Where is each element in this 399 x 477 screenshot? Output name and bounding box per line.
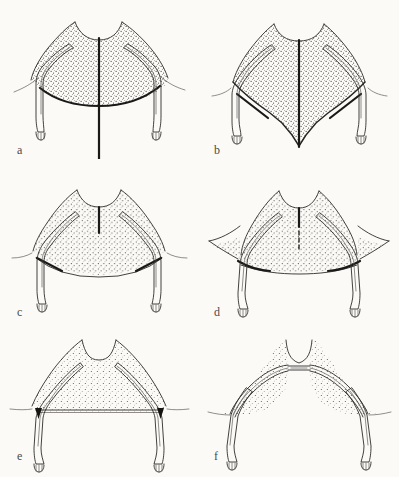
panel-label-b: b xyxy=(214,144,220,156)
panel-f-drawing xyxy=(200,322,399,477)
dorsal-notch-arc xyxy=(286,340,312,363)
panel-d-drawing xyxy=(200,165,399,324)
panel-label-e: e xyxy=(17,450,23,462)
panel-c-drawing xyxy=(0,165,199,324)
figure-panel-d: d xyxy=(200,165,399,324)
figure-panel-f: f xyxy=(200,322,399,477)
left-limb-foot xyxy=(36,132,45,140)
panel-b-drawing xyxy=(200,0,399,159)
panel-label-d: d xyxy=(214,306,220,318)
stipple-field xyxy=(0,322,199,477)
figure-panel-b: b xyxy=(200,0,399,159)
right-flange-edge xyxy=(167,253,187,258)
left-wing-flange xyxy=(209,226,240,241)
right-limb-foot xyxy=(152,132,161,140)
right-flange-edge xyxy=(368,88,387,96)
figure-panel-a: a xyxy=(0,0,199,159)
stipple-field xyxy=(0,165,199,324)
left-flange-edge xyxy=(12,253,32,258)
figure-panel-c: c xyxy=(0,165,199,324)
panel-a-drawing xyxy=(0,0,199,159)
panel-label-f: f xyxy=(214,450,218,462)
stipple-field xyxy=(200,165,399,324)
panel-e-drawing xyxy=(0,322,199,477)
figure-panel-e: e xyxy=(0,322,199,477)
figure-page: a xyxy=(0,0,399,477)
panel-label-c: c xyxy=(17,306,23,318)
left-flange-edge xyxy=(212,88,231,96)
right-wing-flange xyxy=(358,226,389,241)
left-flange-edge xyxy=(10,409,32,410)
panel-label-a: a xyxy=(17,144,23,156)
right-flange-edge xyxy=(167,409,189,410)
stipple-field xyxy=(200,322,399,477)
